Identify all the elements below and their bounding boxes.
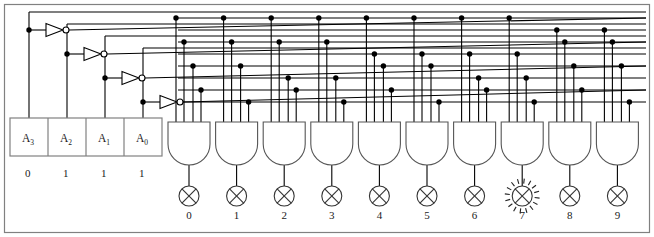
and-gate-8-tap-2	[571, 63, 576, 68]
output-label-6: 6	[472, 209, 478, 221]
output-label-4: 4	[377, 209, 383, 221]
and-gate-4-tap-3	[389, 87, 394, 92]
and-gate-5-tap-3	[436, 99, 441, 104]
and-gate-layer	[168, 122, 638, 165]
and-gate-1[interactable]	[216, 122, 258, 165]
lamp-7-ray-10	[511, 182, 514, 186]
and-gate-8-tap-3	[579, 87, 584, 92]
output-label-1: 1	[234, 209, 240, 221]
lamp-7-ray-6	[508, 204, 512, 207]
and-gate-0[interactable]	[168, 122, 210, 165]
input-value-a2: 1	[63, 167, 69, 179]
input-value-a0: 1	[139, 167, 145, 179]
lamp-layer	[179, 179, 627, 214]
output-label-3: 3	[329, 209, 335, 221]
and-gate-3-tap-0	[316, 15, 321, 20]
and-gate-7-tap-2	[524, 75, 529, 80]
lamp-7-ray-7	[505, 199, 510, 200]
and-gate-0-tap-2	[190, 63, 195, 68]
and-gate-3-tap-2	[333, 75, 338, 80]
inverter-a2-bubble	[101, 51, 107, 57]
lamp-7-ray-11	[517, 179, 518, 184]
and-gate-3-tap-3	[341, 99, 346, 104]
inverter-a3-bubble	[63, 27, 69, 33]
and-gate-3-tap-1	[324, 39, 329, 44]
inverter-a3-body	[46, 24, 63, 37]
and-gate-9-tap-0	[602, 27, 607, 32]
and-gate-9[interactable]	[596, 122, 638, 165]
and-gate-2-tap-2	[286, 75, 291, 80]
output-label-2: 2	[281, 209, 287, 221]
and-gate-6-tap-0	[459, 15, 464, 20]
output-label-layer: 0123456789	[186, 209, 620, 221]
and-gate-2-tap-0	[269, 15, 274, 20]
inverter-a0-body	[160, 96, 177, 109]
output-label-5: 5	[424, 209, 430, 221]
inverter-a3-input-tap	[26, 27, 31, 32]
lamp-7-ray-8	[505, 194, 510, 195]
and-gate-4-tap-2	[381, 63, 386, 68]
and-gate-3[interactable]	[311, 122, 353, 165]
circuit-diagram: A3 A2 A1 A0 0 1 1 1 0123456789	[0, 0, 654, 237]
lamp-7-ray-15	[534, 191, 539, 192]
output-label-7: 7	[519, 209, 525, 221]
and-gate-9-tap-3	[627, 99, 632, 104]
inverter-a0-bubble	[177, 99, 183, 105]
and-gate-9-tap-1	[610, 39, 615, 44]
lamp-7-ray-5	[514, 207, 516, 211]
and-gate-5-tap-0	[411, 15, 416, 20]
and-gate-2[interactable]	[263, 122, 305, 165]
and-gate-2-tap-1	[277, 39, 282, 44]
and-gate-6-tap-2	[476, 75, 481, 80]
inverter-a2-body	[84, 48, 101, 61]
and-gate-6-tap-3	[484, 87, 489, 92]
lamp-7-ray-9	[507, 187, 511, 189]
input-value-a3: 0	[25, 167, 31, 179]
circuit-svg: A3 A2 A1 A0 0 1 1 1 0123456789	[0, 0, 654, 237]
and-gate-5-tap-2	[428, 63, 433, 68]
inverter-a1-bubble	[139, 75, 145, 81]
output-label-0: 0	[186, 209, 192, 221]
lamp-7-ray-12	[524, 179, 525, 184]
and-gate-1-tap-0	[221, 15, 226, 20]
and-gate-4-tap-0	[364, 15, 369, 20]
lamp-7-ray-1	[533, 202, 537, 204]
inverter-a1-body	[122, 72, 139, 85]
and-gate-6-tap-1	[467, 51, 472, 56]
lamp-7-ray-14	[532, 185, 536, 188]
and-gate-2-tap-3	[294, 87, 299, 92]
and-gate-0-tap-3	[198, 87, 203, 92]
and-gate-7-tap-3	[532, 99, 537, 104]
inverter-a2-input-tap	[64, 51, 69, 56]
inverter-a1-input-tap	[102, 75, 107, 80]
and-gate-4[interactable]	[358, 122, 400, 165]
lamp-7-ray-0	[535, 197, 540, 198]
and-gate-8-tap-1	[562, 39, 567, 44]
and-gate-1-tap-3	[246, 99, 251, 104]
and-gate-6[interactable]	[454, 122, 496, 165]
and-gate-8-tap-0	[554, 27, 559, 32]
and-gate-8[interactable]	[549, 122, 591, 165]
lamp-7-ray-3	[526, 208, 527, 213]
inverter-a0-input-tap	[140, 99, 145, 104]
and-gate-7-tap-0	[507, 15, 512, 20]
and-gate-5-tap-1	[419, 51, 424, 56]
output-label-8: 8	[567, 209, 573, 221]
and-gate-0-tap-0	[173, 15, 178, 20]
output-label-9: 9	[615, 209, 621, 221]
inverter-a1-output-wire	[145, 66, 646, 78]
input-register[interactable]: A3 A2 A1 A0 0 1 1 1	[10, 118, 162, 179]
and-gate-7[interactable]	[501, 122, 543, 165]
lamp-7-ray-13	[528, 181, 530, 185]
and-gate-1-tap-1	[229, 39, 234, 44]
and-gate-0-tap-1	[181, 39, 186, 44]
and-gate-4-tap-1	[372, 51, 377, 56]
input-value-a1: 1	[101, 167, 107, 179]
and-gate-1-tap-2	[238, 63, 243, 68]
lamp-7-ray-2	[530, 206, 533, 210]
and-gate-7-tap-1	[515, 51, 520, 56]
and-gate-9-tap-2	[619, 63, 624, 68]
and-gate-5[interactable]	[406, 122, 448, 165]
